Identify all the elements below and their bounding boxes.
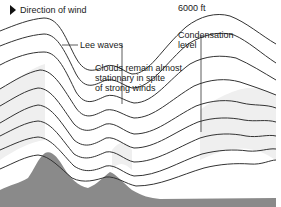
terrain: [0, 152, 276, 207]
wind-direction-label: Direction of wind: [10, 5, 87, 15]
lee-waves-diagram: Direction of wind Lee waves 6000 ft Cond…: [0, 0, 281, 207]
lee-waves-label: Lee waves: [80, 40, 123, 50]
wind-text: Direction of wind: [20, 5, 87, 15]
condensation-label: Condensation level: [178, 30, 234, 50]
cloud-left: [0, 64, 45, 160]
cloud-right: [200, 88, 276, 160]
altitude-label: 6000 ft: [178, 3, 206, 13]
wind-arrow-icon: [10, 5, 16, 15]
clouds-label: Clouds remain almost stationary in spite…: [95, 63, 182, 93]
diagram-graphic: [0, 0, 281, 207]
